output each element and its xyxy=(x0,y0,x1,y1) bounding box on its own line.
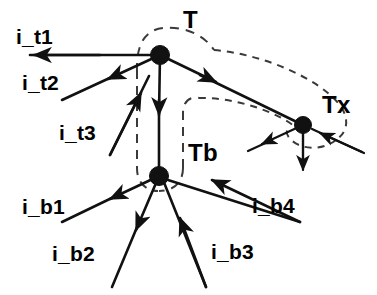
port-label-i-b2: i_b2 xyxy=(52,243,95,264)
port-label-i-b1: i_b1 xyxy=(22,196,65,217)
group-label-Tx: Tx xyxy=(322,93,351,117)
node-Tb[interactable] xyxy=(150,167,169,186)
port-label-i-t1: i_t1 xyxy=(16,26,53,47)
edge-i_t2-tail xyxy=(62,76,114,100)
node-T[interactable] xyxy=(151,46,170,65)
edge-Tx-out-left-tail xyxy=(248,140,272,151)
dashed-group-T xyxy=(137,28,214,191)
edge-i_b3-tail xyxy=(163,180,206,287)
port-label-i-t3: i_t3 xyxy=(59,122,96,143)
port-label-i-t2: i_t2 xyxy=(22,72,59,93)
diagram-canvas: i_t1 i_t2 i_t3 i_b1 i_b2 i_b3 i_b4 T Tb … xyxy=(0,0,377,295)
edge-Tx-in-right-tail xyxy=(312,129,364,153)
group-label-T: T xyxy=(183,8,198,32)
edge-i_b2-tail xyxy=(112,220,140,287)
port-label-i-b4: i_b4 xyxy=(252,195,295,216)
port-label-i-b3: i_b3 xyxy=(211,241,254,262)
edge-i_t3-tail xyxy=(110,76,149,155)
node-Tx[interactable] xyxy=(295,117,312,134)
group-label-Tb: Tb xyxy=(188,141,218,165)
edge-i_b1-tail xyxy=(62,195,118,222)
edge-T-to-Tx-tail xyxy=(200,75,303,125)
node-group xyxy=(150,46,312,186)
